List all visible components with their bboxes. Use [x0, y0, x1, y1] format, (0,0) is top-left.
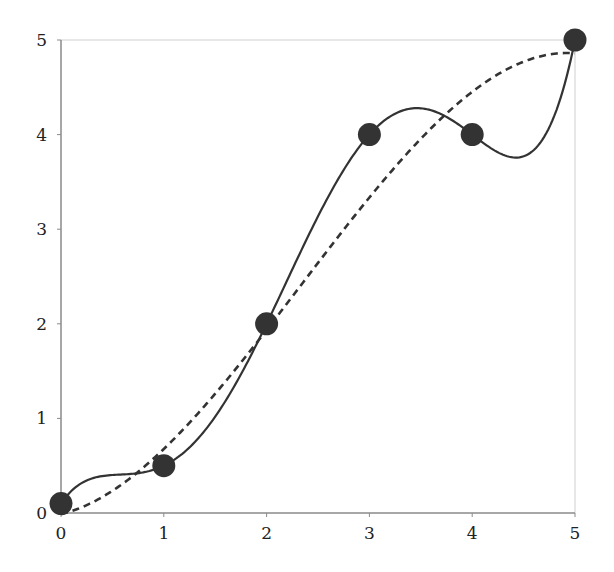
y-tick-label: 5	[36, 30, 47, 50]
y-tick-label: 4	[36, 125, 47, 145]
data-point-marker	[255, 312, 278, 335]
chart: 012345 012345	[0, 0, 614, 572]
data-point-markers	[50, 29, 587, 516]
x-tick-label: 5	[570, 523, 581, 543]
plot-frame	[61, 40, 575, 513]
x-axis-ticks: 012345	[56, 513, 581, 543]
data-point-marker	[461, 123, 484, 146]
x-tick-label: 0	[56, 523, 67, 543]
y-tick-label: 2	[36, 314, 47, 334]
data-point-marker	[564, 29, 587, 52]
x-tick-label: 3	[364, 523, 375, 543]
y-tick-label: 0	[36, 503, 47, 523]
fit-curve-dashed	[61, 53, 575, 514]
data-point-marker	[358, 123, 381, 146]
interpolating-curve-solid	[61, 40, 575, 504]
data-point-marker	[152, 454, 175, 477]
data-point-marker	[50, 492, 73, 515]
x-tick-label: 2	[261, 523, 272, 543]
y-axis-ticks: 012345	[36, 30, 61, 523]
x-tick-label: 1	[158, 523, 169, 543]
x-tick-label: 4	[467, 523, 478, 543]
y-tick-label: 1	[36, 408, 47, 428]
y-tick-label: 3	[36, 219, 47, 239]
